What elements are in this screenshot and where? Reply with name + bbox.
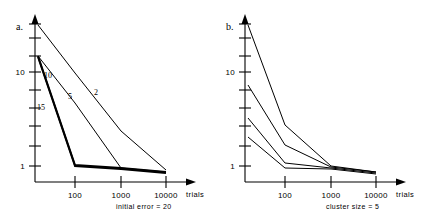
- y-tick-label-1-a: 1: [20, 162, 25, 171]
- chart-panel-a: a.: [0, 0, 216, 218]
- series-line-3-b: [248, 118, 376, 173]
- x-tick-label-100-b: 100: [278, 191, 292, 200]
- y-tick-label-10-a: 10: [16, 68, 26, 77]
- x-axis-arrowhead-b: [396, 179, 406, 186]
- x-tick-label-10000-a: 10000: [154, 191, 178, 200]
- series-label-15-a: 15: [37, 103, 45, 112]
- plot-area-a: 10 1 100 1000 10000 trials 10 15 5 2: [0, 0, 216, 218]
- chart-panel-b: b.: [216, 0, 432, 218]
- series-group-b: [248, 25, 376, 174]
- x-tick-label-1000-a: 1000: [112, 191, 131, 200]
- y-axis-arrowhead-b: [242, 14, 249, 24]
- series-line-2-a: [38, 25, 166, 170]
- x-axis-title-a: trials: [186, 190, 204, 199]
- caption-b: cluster size = 5: [326, 203, 379, 210]
- series-line-2-b: [248, 85, 376, 172]
- series-group-a: [38, 25, 166, 173]
- y-axis-arrowhead-a: [32, 14, 39, 24]
- figure-container: a.: [0, 0, 432, 218]
- plot-area-b: 10 1 100 1000 10000 trials: [216, 0, 432, 218]
- series-line-15-a: [38, 57, 166, 173]
- series-line-1-b: [248, 25, 376, 172]
- axes-a: [32, 14, 197, 186]
- y-tick-label-10-b: 10: [226, 68, 236, 77]
- series-label-2-a: 2: [94, 88, 98, 97]
- caption-a: initial error = 20: [116, 203, 172, 210]
- x-tick-label-100-a: 100: [68, 191, 82, 200]
- x-axis-arrowhead-a: [186, 179, 196, 186]
- series-label-10-a: 10: [44, 71, 52, 80]
- x-tick-label-1000-b: 1000: [322, 191, 341, 200]
- series-line-4-b: [248, 137, 376, 174]
- series-label-5-a: 5: [68, 92, 72, 101]
- y-tick-label-1-b: 1: [230, 162, 235, 171]
- x-axis-title-b: trials: [396, 190, 414, 199]
- x-tick-label-10000-b: 10000: [364, 191, 388, 200]
